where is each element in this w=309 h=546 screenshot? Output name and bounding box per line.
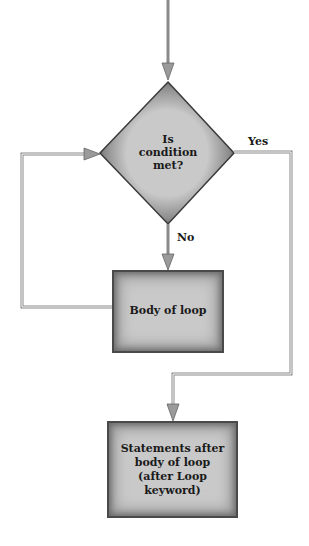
decision-text: Is condition met? — [118, 133, 218, 172]
yes-label: Yes — [248, 135, 268, 148]
loop-back-arrow — [22, 148, 112, 307]
body-of-loop-text: Body of loop — [112, 304, 224, 317]
no-arrow — [162, 224, 174, 270]
entry-arrow — [162, 0, 174, 80]
no-label: No — [177, 231, 194, 244]
statements-after-text: Statements after body of loop (after Loo… — [107, 442, 238, 498]
